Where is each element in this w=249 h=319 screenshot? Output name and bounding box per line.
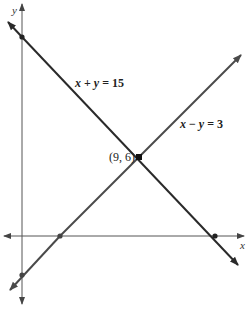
point-intersection (136, 154, 142, 160)
y-axis-label: y (11, 4, 17, 16)
point-x-intercept-15-0 (212, 233, 217, 238)
label-x-plus-y-15: x + y = 15 (74, 76, 124, 90)
line-x-plus-y-upper-arrow (8, 22, 22, 37)
label-x-minus-y-rest: = 3 (204, 117, 223, 131)
point-y-intercept-0-neg3 (19, 272, 24, 277)
graph-of-linear-system: y x x + y = 15 x − y = 3 (9, 6) (0, 0, 249, 319)
label-x-plus-y-x: x (74, 76, 81, 90)
line-x-minus-y-lower-arrow (10, 236, 60, 290)
label-x-minus-y-op: − (186, 117, 199, 131)
label-x-plus-y-op: + (81, 76, 94, 90)
label-intersection-point: (9, 6) (109, 150, 135, 164)
point-y-intercept-0-15 (19, 34, 24, 39)
line-x-plus-y-15 (8, 22, 238, 265)
label-x-minus-y-3: x − y = 3 (179, 117, 223, 131)
label-x-minus-y-x: x (179, 117, 186, 131)
x-axis-label: x (239, 239, 245, 251)
point-x-intercept-3-0 (57, 233, 62, 238)
line-x-minus-y-3 (10, 55, 241, 290)
label-x-plus-y-rest: = 15 (99, 76, 124, 90)
